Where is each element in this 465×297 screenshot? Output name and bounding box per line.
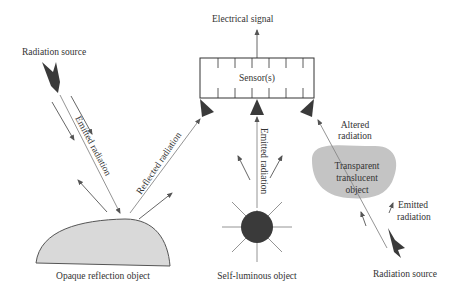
electrical-signal-label: Electrical signal (212, 14, 274, 24)
left-emitted-beam (60, 95, 120, 213)
right-emitted-arrow-2 (389, 203, 393, 213)
middle-emitted-label: Emitted radiation (259, 128, 269, 194)
sensing-diagram: Electrical signal Sensor(s) Radiation so… (0, 0, 465, 297)
middle-side-arrow-right (270, 156, 282, 178)
sensor-input-right-icon (300, 99, 314, 117)
altered-label-1: Altered (341, 120, 370, 130)
right-emitted-label-1: Emitted (398, 200, 428, 210)
left-emitted-label: Emitted radiation (73, 114, 113, 177)
self-luminous-label: Self-luminous object (217, 271, 297, 281)
transparent-label-3: object (345, 185, 369, 195)
left-source-label: Radiation source (22, 47, 86, 57)
right-source-icon (388, 228, 405, 258)
opaque-object (36, 219, 170, 266)
sensor-box: Sensor(s) (200, 58, 314, 98)
altered-label-2: radiation (338, 131, 372, 141)
right-source-label: Radiation source (373, 269, 437, 279)
sensor-input-middle-icon (250, 99, 264, 115)
transparent-label-2: translucent (336, 173, 378, 183)
scatter-arrow-left (78, 180, 107, 212)
left-source-icon (42, 62, 60, 93)
opaque-object-label: Opaque reflection object (56, 271, 150, 281)
sensor-input-left-icon (200, 99, 214, 117)
right-emitted-arrow-1 (361, 212, 366, 226)
right-emitted-label-2: radiation (397, 212, 431, 222)
middle-side-arrow-left (238, 156, 250, 180)
sensor-label: Sensor(s) (239, 73, 275, 84)
scatter-arrow-right (139, 193, 172, 219)
self-luminous-object (241, 211, 273, 243)
transparent-label-1: Transparent (334, 161, 379, 171)
reflected-label: Reflected radiation (134, 130, 183, 196)
left-emitted-arrow-1 (52, 102, 74, 140)
